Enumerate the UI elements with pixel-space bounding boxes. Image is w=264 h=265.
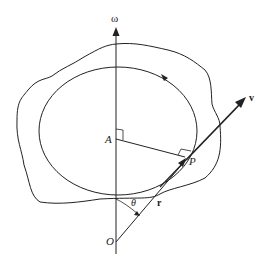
radius-A-to-P — [116, 139, 185, 157]
diagram-canvas: ω A P O v r θ — [0, 0, 264, 265]
axis-arrowhead-icon — [113, 27, 120, 36]
label-theta: θ — [131, 197, 136, 208]
circular-path — [39, 67, 197, 195]
label-P: P — [188, 155, 196, 167]
label-A: A — [104, 133, 112, 145]
velocity-vector-v — [186, 103, 241, 160]
label-r: r — [157, 197, 162, 208]
label-omega: ω — [111, 12, 118, 24]
label-v: v — [249, 92, 254, 103]
right-angle-marker-A — [116, 129, 123, 140]
position-vector-r — [116, 162, 184, 242]
label-O: O — [106, 235, 114, 247]
velocity-tail — [160, 160, 186, 187]
